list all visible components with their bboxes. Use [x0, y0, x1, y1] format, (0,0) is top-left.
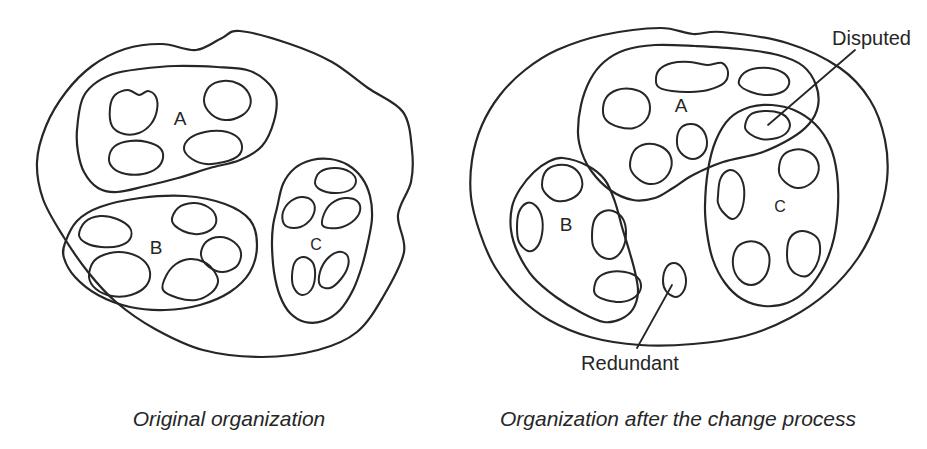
unit-blob	[315, 168, 356, 193]
unit-blob	[204, 81, 251, 120]
right-group-b: B	[510, 158, 641, 322]
left-diagram-caption: Original organization	[133, 407, 326, 430]
redundant-unit-blob	[663, 263, 686, 297]
left-group-a: A	[77, 66, 277, 192]
disputed-pointer-line	[768, 50, 855, 125]
unit-blob	[162, 259, 218, 300]
unit-blob	[319, 252, 349, 289]
left-group-b-label: B	[150, 237, 163, 258]
unit-blob	[110, 90, 158, 135]
redundant-pointer-line	[637, 285, 672, 348]
original-organization-diagram: A B C Original organization	[37, 31, 413, 430]
unit-blob	[517, 203, 543, 251]
left-group-c-boundary	[272, 159, 372, 323]
unit-blob	[718, 170, 745, 219]
right-group-a-boundary	[578, 45, 819, 201]
right-group-c-label: C	[774, 198, 786, 215]
unit-blob	[787, 231, 820, 276]
right-group-b-label: B	[560, 214, 573, 235]
right-group-a-label: A	[675, 95, 688, 116]
unit-blob	[201, 237, 241, 272]
unit-blob	[603, 89, 650, 129]
unit-blob	[172, 203, 216, 234]
unit-blob	[542, 165, 582, 202]
unit-blob	[322, 198, 360, 228]
unit-blob	[656, 62, 728, 92]
right-group-c-boundary	[705, 105, 838, 306]
unit-blob	[292, 257, 315, 295]
unit-blob	[594, 271, 641, 302]
unit-blob	[79, 216, 132, 247]
redundant-label: Redundant	[581, 352, 679, 374]
left-group-a-label: A	[174, 108, 187, 129]
unit-blob	[733, 241, 770, 285]
organization-change-figure: A B C Original organization	[0, 0, 927, 449]
right-diagram-caption: Organization after the change process	[500, 407, 857, 430]
unit-blob	[89, 252, 150, 297]
right-group-a: A	[578, 45, 819, 201]
unit-blob	[779, 149, 819, 188]
unit-blob	[282, 197, 314, 228]
right-group-c: C	[705, 105, 838, 306]
unit-blob	[184, 131, 242, 164]
unit-blob	[739, 68, 789, 95]
figure-canvas: A B C Original organization	[0, 0, 927, 449]
unit-blob	[677, 124, 707, 159]
changed-organization-diagram: A B C Disputed	[470, 27, 911, 430]
right-group-b-boundary	[510, 158, 638, 322]
unit-blob	[109, 141, 163, 175]
left-group-b: B	[63, 196, 257, 310]
disputed-label: Disputed	[832, 27, 911, 49]
left-organization-boundary	[37, 31, 413, 357]
unit-blob	[630, 144, 672, 184]
left-group-c: C	[272, 159, 372, 323]
left-group-c-label: C	[310, 236, 322, 253]
unit-blob	[592, 210, 626, 258]
